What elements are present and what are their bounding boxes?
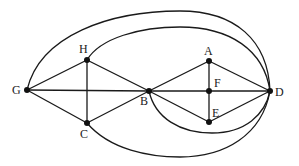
arc-h-d xyxy=(87,27,270,91)
vertex-g xyxy=(24,87,30,93)
vertex-label-b: B xyxy=(140,94,148,108)
curved-edges xyxy=(27,11,270,157)
vertex-label-e: E xyxy=(212,106,219,120)
edge-h-b xyxy=(87,60,149,91)
edge-b-e xyxy=(149,91,209,122)
edge-g-c xyxy=(27,90,87,123)
vertex-label-d: D xyxy=(275,85,284,99)
arc-c-d xyxy=(87,91,270,157)
edge-g-h xyxy=(27,60,87,90)
vertex-label-a: A xyxy=(204,44,213,58)
vertex-h xyxy=(84,57,90,63)
edge-g-b xyxy=(27,90,149,91)
vertex-label-h: H xyxy=(79,42,88,56)
vertex-f xyxy=(206,88,212,94)
vertex-label-c: C xyxy=(80,127,88,141)
edge-b-a xyxy=(149,61,209,91)
vertex-label-g: G xyxy=(12,83,21,97)
vertex-a xyxy=(206,58,212,64)
vertex-c xyxy=(84,120,90,126)
vertex-d xyxy=(267,88,273,94)
vertex-label-f: F xyxy=(214,76,221,90)
arc-g-d xyxy=(27,11,270,91)
graph-diagram: GHCBAFED xyxy=(0,0,299,166)
